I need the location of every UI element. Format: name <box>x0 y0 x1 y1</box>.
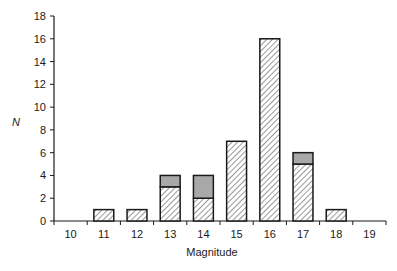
histogram-bar <box>193 175 213 221</box>
y-tick-label: 18 <box>34 10 46 22</box>
x-axis-title: Magnitude <box>186 246 237 258</box>
x-tick-label: 19 <box>363 228 375 240</box>
x-tick-label: 15 <box>230 228 242 240</box>
x-axis: 10111213141516171819 <box>54 221 386 240</box>
x-tick-label: 10 <box>64 228 76 240</box>
histogram-bar <box>127 210 147 221</box>
x-tick-label: 16 <box>264 228 276 240</box>
x-tick-label: 17 <box>297 228 309 240</box>
histogram-chart: 024681012141618 10111213141516171819 N M… <box>0 0 397 271</box>
histogram-bar <box>326 210 346 221</box>
x-tick-label: 14 <box>197 228 209 240</box>
y-tick-label: 14 <box>34 56 46 68</box>
histogram-bar <box>160 175 180 221</box>
x-tick-label: 13 <box>164 228 176 240</box>
y-axis-title: N <box>12 116 20 128</box>
x-tick-label: 11 <box>98 228 109 240</box>
y-axis: 024681012141618 <box>34 10 54 227</box>
histogram-bar <box>293 153 313 221</box>
histogram-bar <box>94 210 114 221</box>
y-tick-label: 4 <box>40 169 46 181</box>
y-tick-label: 2 <box>40 192 46 204</box>
y-tick-label: 16 <box>34 33 46 45</box>
y-tick-label: 10 <box>34 101 46 113</box>
x-tick-label: 18 <box>330 228 342 240</box>
y-tick-label: 0 <box>40 215 46 227</box>
y-tick-label: 12 <box>34 78 46 90</box>
bars <box>94 39 346 221</box>
histogram-bar <box>260 39 280 221</box>
histogram-bar <box>227 141 247 221</box>
x-tick-label: 12 <box>131 228 143 240</box>
y-tick-label: 8 <box>40 124 46 136</box>
y-tick-label: 6 <box>40 147 46 159</box>
